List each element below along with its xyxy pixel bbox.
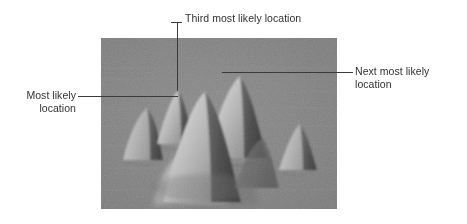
surface-shadow bbox=[153, 174, 257, 202]
annotation-third-most-likely-location: Third most likely location bbox=[185, 12, 301, 25]
annotation-most-likely-location: Most likely location bbox=[4, 89, 76, 115]
figure-root: Third most likely location Next most lik… bbox=[0, 0, 467, 224]
surface-mesh bbox=[101, 38, 337, 209]
surface-plot-panel bbox=[101, 38, 337, 209]
leader-line-third-vertical bbox=[177, 22, 178, 91]
leader-line-next bbox=[222, 72, 353, 73]
annotation-next-most-likely-location: Next most likely location bbox=[355, 65, 429, 91]
leader-line-most bbox=[78, 96, 178, 97]
